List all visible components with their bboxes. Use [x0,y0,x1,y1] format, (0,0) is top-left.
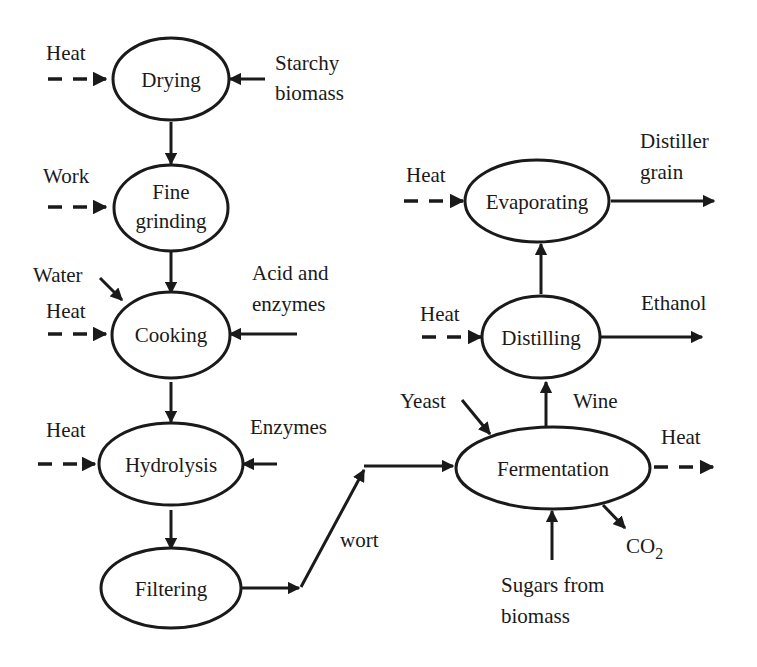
node-drying-label: Drying [141,68,201,92]
label-distiller-grain-1: Distiller [640,129,709,153]
label-fermentation-heat: Heat [661,425,701,449]
label-acid-enzymes-1: Acid and [252,261,329,285]
label-cooking-heat: Heat [46,299,86,323]
fermentation-to-co2-arrow [603,505,625,528]
label-cooking-water: Water [33,263,83,287]
node-evaporating-label: Evaporating [486,190,589,214]
label-ethanol: Ethanol [641,291,706,315]
node-hydrolysis-label: Hydrolysis [125,453,217,477]
node-filtering: Filtering [101,548,241,628]
label-hydrolysis-enzymes: Enzymes [250,415,327,439]
node-fermentation-label: Fermentation [497,457,609,481]
label-sugars-from-biomass-1: Sugars from [501,573,604,597]
label-hydrolysis-heat: Heat [46,418,86,442]
node-fine-grinding-label-1: Fine [152,180,189,204]
label-evaporating-heat: Heat [406,163,446,187]
node-fermentation: Fermentation [456,427,650,509]
node-fine-grinding: Fine grinding [114,165,228,251]
node-distilling: Distilling [482,296,600,378]
label-distilling-heat: Heat [420,302,460,326]
label-starchy-biomass-2: biomass [275,81,344,105]
label-distiller-grain-2: grain [640,160,684,184]
node-evaporating: Evaporating [465,160,609,242]
node-drying: Drying [113,38,229,120]
label-starchy-biomass-1: Starchy [275,51,340,75]
node-fine-grinding-label-2: grinding [135,209,207,233]
label-wort: wort [340,528,379,552]
water-to-cooking-arrow [100,278,122,300]
label-sugars-from-biomass-2: biomass [501,604,570,628]
node-cooking-label: Cooking [135,323,208,347]
label-grinding-work: Work [43,164,90,188]
node-filtering-label: Filtering [135,577,208,601]
node-cooking: Cooking [112,292,230,378]
yeast-to-fermentation-arrow [462,400,490,434]
node-distilling-label: Distilling [501,326,581,350]
label-acid-enzymes-2: enzymes [252,292,325,316]
label-wine: Wine [573,389,618,413]
label-drying-heat: Heat [46,41,86,65]
ethanol-production-flow-diagram: Drying Fine grinding Cooking Hydrolysis … [0,0,757,667]
label-co2: CO2 [626,534,663,562]
node-hydrolysis: Hydrolysis [99,423,243,505]
label-yeast: Yeast [400,389,446,413]
